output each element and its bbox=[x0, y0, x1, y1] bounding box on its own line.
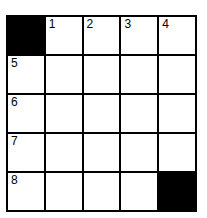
cell-r3c4[interactable] bbox=[159, 134, 195, 171]
clue-number: 3 bbox=[124, 18, 131, 30]
cell-r1c1[interactable] bbox=[46, 56, 82, 93]
clue-number: 6 bbox=[11, 96, 18, 108]
cell-r3c1[interactable] bbox=[46, 134, 82, 171]
cell-r1c4[interactable] bbox=[159, 56, 195, 93]
cell-r1c2[interactable] bbox=[84, 56, 120, 93]
crossword-grid: 1 2 3 4 5 6 7 8 bbox=[6, 15, 197, 212]
cell-r0c4[interactable]: 4 bbox=[159, 17, 195, 54]
clue-number: 8 bbox=[11, 174, 18, 186]
clue-number: 1 bbox=[49, 18, 56, 30]
cell-r1c3[interactable] bbox=[121, 56, 157, 93]
cell-r2c0[interactable]: 6 bbox=[8, 95, 44, 132]
cell-r3c0[interactable]: 7 bbox=[8, 134, 44, 171]
cell-r4c2[interactable] bbox=[84, 173, 120, 210]
block-cell bbox=[8, 17, 44, 54]
cell-r2c4[interactable] bbox=[159, 95, 195, 132]
block-cell bbox=[159, 173, 195, 210]
cell-r3c2[interactable] bbox=[84, 134, 120, 171]
cell-r0c2[interactable]: 2 bbox=[84, 17, 120, 54]
clue-number: 4 bbox=[162, 18, 169, 30]
cell-r2c1[interactable] bbox=[46, 95, 82, 132]
cell-r4c1[interactable] bbox=[46, 173, 82, 210]
cell-r2c2[interactable] bbox=[84, 95, 120, 132]
cell-r4c3[interactable] bbox=[121, 173, 157, 210]
clue-number: 7 bbox=[11, 135, 18, 147]
cell-r0c1[interactable]: 1 bbox=[46, 17, 82, 54]
clue-number: 2 bbox=[87, 18, 94, 30]
cell-r2c3[interactable] bbox=[121, 95, 157, 132]
cell-r4c0[interactable]: 8 bbox=[8, 173, 44, 210]
cell-r3c3[interactable] bbox=[121, 134, 157, 171]
clue-number: 5 bbox=[11, 57, 18, 69]
cell-r0c3[interactable]: 3 bbox=[121, 17, 157, 54]
cell-r1c0[interactable]: 5 bbox=[8, 56, 44, 93]
